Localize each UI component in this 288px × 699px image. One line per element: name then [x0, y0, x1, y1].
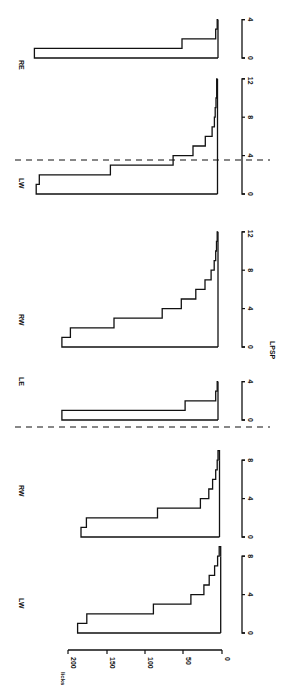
bin-axis: [242, 232, 245, 347]
y-axis-title: licks: [60, 672, 66, 686]
bin-tick-label: 0: [247, 418, 254, 422]
panel-label-lw-1: LW: [18, 598, 25, 609]
bin-tick-label: 0: [247, 631, 254, 635]
panel-label-le-2: LE: [18, 377, 25, 386]
histogram-le: [62, 382, 218, 420]
histogram-figure: 04804804048120481204 200 150 100 50 0 li…: [0, 0, 288, 699]
histogram-lw: [78, 547, 221, 633]
histogram-panels: 04804804048120481204: [34, 18, 254, 635]
ytick-100: 100: [147, 657, 154, 669]
ytick-50: 50: [185, 657, 192, 665]
bin-tick-label: 0: [247, 56, 254, 60]
histogram-rw: [81, 451, 220, 537]
bin-tick-label: 4: [247, 154, 254, 158]
bin-tick-label: 8: [247, 554, 254, 558]
ytick-0: 0: [224, 657, 231, 661]
bin-axis: [242, 382, 245, 420]
histogram-rw: [62, 232, 218, 347]
panel-label-rw-1: RW: [18, 485, 25, 497]
x-axis-title: LPSP: [269, 341, 276, 360]
bin-tick-label: 8: [247, 458, 254, 462]
panel-label-lw-3: LW: [18, 178, 25, 189]
bin-tick-label: 0: [247, 535, 254, 539]
bin-tick-label: 12: [247, 230, 254, 238]
bin-axis: [242, 20, 245, 58]
bin-tick-label: 4: [247, 380, 254, 384]
bin-tick-label: 4: [247, 497, 254, 501]
bin-tick-label: 4: [247, 593, 254, 597]
histogram-re: [34, 20, 218, 58]
bin-axis: [242, 79, 245, 194]
bin-tick-label: 12: [247, 77, 254, 85]
bin-tick-label: 4: [247, 307, 254, 311]
histogram-lw: [36, 79, 217, 194]
bin-tick-label: 0: [247, 192, 254, 196]
bin-tick-label: 4: [247, 18, 254, 22]
bin-tick-label: 0: [247, 345, 254, 349]
bin-tick-label: 8: [247, 268, 254, 272]
panel-label-re-3: RE: [18, 60, 25, 70]
licks-axis: 200 150 100 50 0 licks: [60, 650, 231, 686]
ytick-150: 150: [109, 657, 116, 669]
bin-tick-label: 8: [247, 115, 254, 119]
ytick-200: 200: [70, 657, 77, 669]
panel-label-rw-2: RW: [18, 314, 25, 326]
